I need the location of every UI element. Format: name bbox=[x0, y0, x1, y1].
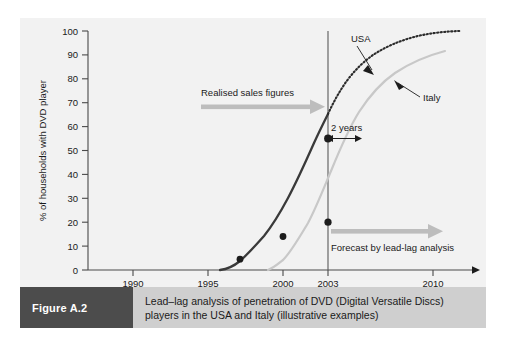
figure-container: 100 90 80 70 60 50 40 30 20 10 0 % of ho… bbox=[20, 18, 486, 328]
series-italy-curve bbox=[268, 51, 445, 270]
series-usa-actual-curve bbox=[220, 114, 328, 270]
italy-series-label: Italy bbox=[423, 92, 441, 103]
y-tick-label-60: 60 bbox=[67, 121, 78, 132]
y-tick-label-40: 40 bbox=[67, 169, 78, 180]
y-tick-label-80: 80 bbox=[67, 73, 78, 84]
italy-leader-arrowhead bbox=[394, 80, 404, 90]
lag-measure-label: 2 years bbox=[331, 122, 362, 133]
y-tick-label-100: 100 bbox=[62, 26, 78, 37]
marker-usa-2000 bbox=[280, 233, 287, 240]
usa-series-label: USA bbox=[351, 33, 371, 44]
y-tick-label-20: 20 bbox=[67, 217, 78, 228]
figure-number: Figure A.2 bbox=[20, 287, 133, 328]
y-axis-title: % of households with DVD player bbox=[37, 80, 48, 221]
x-tick-label-2010: 2010 bbox=[422, 278, 443, 287]
marker-italy-2003 bbox=[324, 219, 331, 226]
figure-caption-text: Lead–lag analysis of penetration of DVD … bbox=[133, 287, 486, 328]
realised-sales-annotation: Realised sales figures bbox=[201, 87, 325, 114]
y-tick-label-0: 0 bbox=[73, 265, 78, 276]
x-tick-label-2003: 2003 bbox=[317, 278, 338, 287]
plot-panel: 100 90 80 70 60 50 40 30 20 10 0 % of ho… bbox=[20, 18, 486, 287]
y-tick-label-30: 30 bbox=[67, 193, 78, 204]
y-tick-label-50: 50 bbox=[67, 145, 78, 156]
y-tick-label-90: 90 bbox=[67, 49, 78, 60]
italy-series-label-group: Italy bbox=[394, 80, 441, 103]
x-tick-label-2000: 2000 bbox=[272, 278, 293, 287]
lead-lag-line-chart: 100 90 80 70 60 50 40 30 20 10 0 % of ho… bbox=[20, 18, 486, 287]
realised-sales-arrow bbox=[201, 100, 325, 115]
usa-leader-arrowhead bbox=[363, 65, 374, 75]
data-markers bbox=[237, 135, 332, 263]
x-tick-label-1990: 1990 bbox=[122, 278, 143, 287]
lag-measure-annotation: 2 years bbox=[326, 122, 362, 142]
x-axis: 1990 1995 2000 2003 2010 bbox=[88, 266, 480, 287]
forecast-label: Forecast by lead-lag analysis bbox=[331, 242, 454, 253]
realised-sales-label: Realised sales figures bbox=[201, 87, 294, 98]
x-axis-arrowhead bbox=[472, 266, 480, 274]
y-tick-label-70: 70 bbox=[67, 97, 78, 108]
y-axis: 100 90 80 70 60 50 40 30 20 10 0 % of ho… bbox=[37, 26, 88, 276]
lag-arrowhead-right bbox=[355, 135, 362, 142]
usa-series-label-group: USA bbox=[351, 33, 374, 75]
forecast-annotation: Forecast by lead-lag analysis bbox=[331, 224, 454, 253]
figure-caption-bar: Figure A.2 Lead–lag analysis of penetrat… bbox=[20, 287, 486, 328]
x-tick-label-1995: 1995 bbox=[197, 278, 218, 287]
marker-usa-1998 bbox=[237, 256, 244, 263]
forecast-arrow bbox=[331, 224, 443, 239]
y-tick-label-10: 10 bbox=[67, 241, 78, 252]
